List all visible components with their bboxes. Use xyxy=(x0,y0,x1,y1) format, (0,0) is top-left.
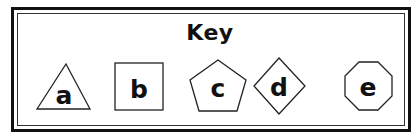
key-item-diamond: d xyxy=(254,58,305,114)
key-label-c: c xyxy=(211,74,226,103)
key-label-b: b xyxy=(130,75,148,104)
key-item-pentagon: c xyxy=(190,60,246,111)
shape-legend: a b c d e xyxy=(0,0,420,134)
key-label-e: e xyxy=(360,73,377,102)
key-item-square: b xyxy=(115,63,163,110)
key-label-d: d xyxy=(270,73,288,102)
key-item-octagon: e xyxy=(345,62,392,110)
key-label-a: a xyxy=(56,81,73,110)
key-item-triangle: a xyxy=(37,64,90,110)
